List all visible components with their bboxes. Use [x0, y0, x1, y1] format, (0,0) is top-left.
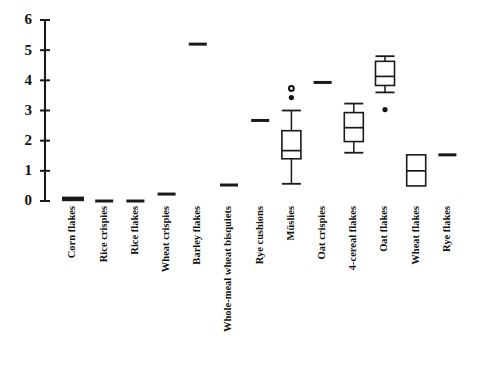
x-axis-category-label: Corn flakes [66, 206, 77, 258]
boxplot-outlier [289, 86, 294, 91]
y-axis-tick-label: 5 [25, 42, 33, 58]
boxplot-item [282, 86, 301, 184]
box-plot-svg: 0123456 Corn flakesRice crispiesRice fla… [0, 0, 478, 381]
x-axis-category-label: 4-cereal flakes [347, 206, 358, 270]
box-plot-series [62, 44, 456, 201]
boxplot-box [376, 61, 395, 85]
y-axis-tick-label: 6 [25, 11, 33, 27]
boxplot-item [344, 104, 363, 153]
x-axis-category-label: Oat crispies [316, 206, 327, 259]
x-axis-category-label: Oat flakes [378, 206, 389, 252]
x-axis-category-label: Whole-meal wheat bisquiets [222, 206, 233, 332]
y-axis-tick-label: 0 [25, 192, 33, 208]
y-axis-tick-label: 4 [25, 72, 33, 88]
boxplot-item [407, 155, 426, 186]
y-axis-tick-labels: 0123456 [25, 11, 33, 208]
y-axis [40, 20, 50, 202]
x-axis-category-label: Rice crispies [98, 206, 109, 262]
boxplot-outlier [382, 107, 387, 112]
boxplot-box [282, 131, 301, 159]
x-axis-category-label: Rice flakes [129, 206, 140, 255]
x-axis-category-labels: Corn flakesRice crispiesRice flakesWheat… [66, 206, 451, 332]
y-axis-tick-label: 1 [25, 162, 33, 178]
y-axis-tick-label: 3 [25, 102, 33, 118]
x-axis-category-label: Barley flakes [191, 206, 202, 265]
x-axis-category-label: Rye cushions [254, 206, 265, 264]
boxplot-item [376, 56, 395, 112]
x-axis-category-label: Wheat crispies [160, 206, 171, 272]
x-axis-category-label: Müslies [285, 206, 296, 240]
x-axis-category-label: Wheat flakes [410, 206, 421, 265]
y-axis-tick-label: 2 [25, 132, 33, 148]
boxplot-outlier [289, 95, 294, 100]
box-plot-figure: 0123456 Corn flakesRice crispiesRice fla… [0, 0, 478, 381]
x-axis-category-label: Rye flakes [441, 206, 452, 252]
